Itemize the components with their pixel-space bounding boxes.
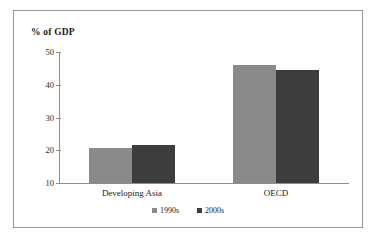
y-tick-label-40: 40 — [24, 81, 54, 90]
bar-oecd-2000s — [276, 70, 319, 183]
legend-item-1990s: 1990s — [152, 206, 179, 215]
x-category-label-oecd: OECD — [204, 188, 348, 198]
y-tick-label-20: 20 — [24, 146, 54, 155]
y-tick-label-30: 30 — [24, 114, 54, 123]
y-tick-mark-10 — [56, 183, 61, 184]
x-category-label-developing-asia: Developing Asia — [60, 188, 204, 198]
bar-developing-asia-2000s — [132, 145, 175, 183]
legend-label-1990s: 1990s — [160, 206, 179, 215]
legend-item-2000s: 2000s — [197, 206, 224, 215]
legend-swatch-icon-2000s — [197, 208, 202, 213]
x-axis-line — [59, 183, 349, 184]
bar-oecd-1990s — [233, 65, 276, 183]
bar-developing-asia-1990s — [89, 148, 132, 183]
y-tick-label-50: 50 — [24, 48, 54, 57]
legend-swatch-icon-1990s — [152, 208, 157, 213]
legend-label-2000s: 2000s — [205, 206, 224, 215]
chart-figure: % of GDP 50 40 30 20 10 Developing Asia … — [0, 0, 376, 239]
chart-legend: 1990s 2000s — [0, 206, 376, 215]
y-tick-label-10: 10 — [24, 179, 54, 188]
plot-area — [60, 52, 348, 183]
y-axis-title: % of GDP — [31, 27, 75, 37]
